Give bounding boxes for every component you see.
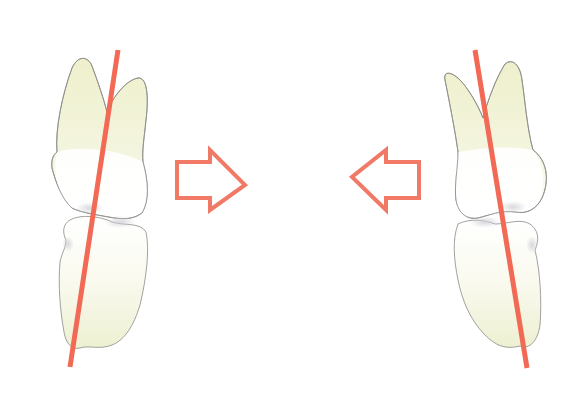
arrow-right-outline-icon xyxy=(177,150,245,210)
left-tooth-pair xyxy=(52,50,148,367)
right-tooth-pair xyxy=(445,50,547,368)
left-lower-tooth xyxy=(59,216,147,348)
dental-axis-diagram xyxy=(0,0,586,394)
arrow-left-outline-icon xyxy=(352,150,419,210)
